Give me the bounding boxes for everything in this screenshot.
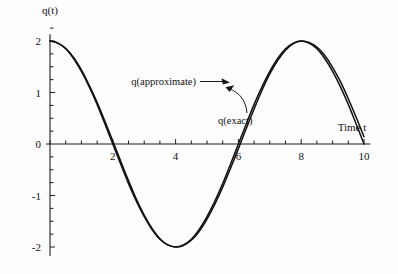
y-tick-label: 0 [36, 138, 42, 150]
x-tick-label: 6 [236, 150, 242, 162]
annotation-leader-exact [230, 89, 247, 113]
y-tick-label: 1 [36, 87, 42, 99]
y-tick-label: 2 [36, 35, 42, 47]
annotation-arrowhead-exact [226, 85, 235, 92]
x-tick-label: 2 [110, 150, 116, 162]
x-axis-title: Time t [338, 121, 367, 133]
annotation-label-approximate: q(approximate) [131, 76, 196, 88]
y-tick-label: -2 [32, 241, 41, 253]
x-tick-label: 10 [359, 150, 371, 162]
y-tick-label: -1 [32, 190, 41, 202]
chart-plot: 246810210-1-2 q(approximate)q(exact) q(t… [0, 0, 398, 274]
x-tick-label: 8 [298, 150, 304, 162]
figure-canvas: 246810210-1-2 q(approximate)q(exact) q(t… [0, 0, 398, 274]
annotation-label-exact: q(exact) [218, 115, 253, 127]
annotations: q(approximate)q(exact) [131, 76, 253, 127]
axes [46, 28, 370, 256]
x-tick-label: 4 [173, 150, 179, 162]
annotation-arrowhead-approximate [222, 78, 231, 84]
y-axis-title: q(t) [42, 4, 58, 17]
